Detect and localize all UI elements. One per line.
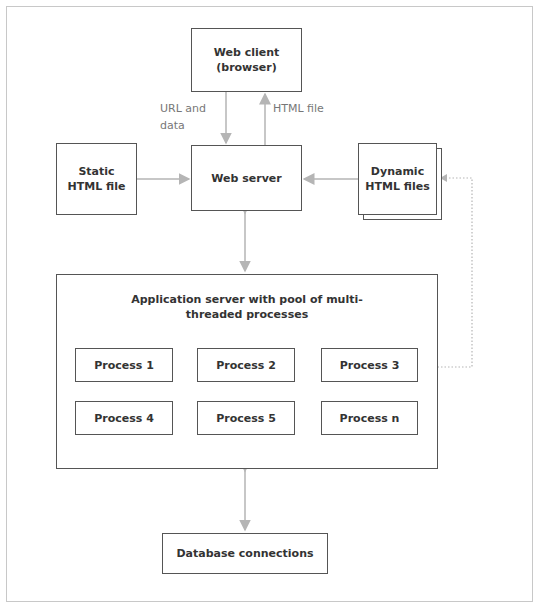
dynamic-html-sublabel: HTML files (365, 179, 429, 194)
process-n: Process n (321, 401, 418, 435)
app-title-line2: threaded processes (57, 307, 437, 322)
process-5: Process 5 (197, 401, 295, 435)
app-title-line1: Application server with pool of multi- (57, 292, 437, 307)
application-server-title: Application server with pool of multi- t… (57, 292, 437, 322)
url-data-label: URL and data (160, 100, 206, 134)
web-server-label: Web server (211, 171, 281, 186)
process-2: Process 2 (197, 348, 295, 382)
static-html-label: Static (78, 164, 114, 179)
dynamic-html-node: Dynamic HTML files (358, 143, 437, 215)
url-data-label-line1: URL and (160, 100, 206, 117)
database-label: Database connections (176, 546, 313, 561)
url-data-label-line2: data (160, 117, 206, 134)
process-4: Process 4 (75, 401, 173, 435)
web-client-label: Web client (214, 45, 280, 60)
static-html-sublabel: HTML file (68, 179, 126, 194)
database-connections-node: Database connections (162, 533, 328, 574)
web-client-node: Web client (browser) (191, 28, 302, 92)
dynamic-html-label: Dynamic (371, 164, 424, 179)
process-3: Process 3 (321, 348, 418, 382)
process-1: Process 1 (75, 348, 173, 382)
web-client-sublabel: (browser) (216, 60, 277, 75)
web-server-node: Web server (191, 145, 302, 211)
html-file-label: HTML file (273, 100, 324, 117)
static-html-node: Static HTML file (56, 143, 137, 215)
